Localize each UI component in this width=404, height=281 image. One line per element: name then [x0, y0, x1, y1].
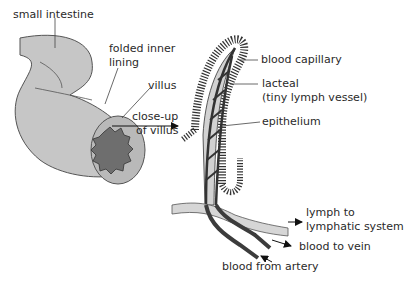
label-close-up-line1: close-up — [132, 110, 178, 123]
label-lymph-line1: lymph to — [306, 206, 355, 219]
label-lacteal-line1: lacteal — [262, 77, 299, 90]
label-blood-to-vein: blood to vein — [299, 240, 371, 253]
label-lacteal-line2: (tiny lymph vessel) — [262, 91, 367, 104]
label-folded-inner-lining-line1: folded inner — [109, 42, 175, 55]
label-close-up-line2: of villus — [136, 124, 178, 137]
label-epithelium: epithelium — [262, 115, 321, 128]
label-lymph-line2: lymphatic system — [306, 220, 404, 233]
label-villus: villus — [148, 79, 176, 92]
label-blood-capillary: blood capillary — [261, 53, 342, 66]
label-small-intestine: small intestine — [13, 8, 94, 21]
villus-illustration — [182, 39, 244, 205]
label-folded-inner-lining-line2: lining — [109, 56, 139, 69]
label-blood-from-artery: blood from artery — [222, 260, 318, 273]
